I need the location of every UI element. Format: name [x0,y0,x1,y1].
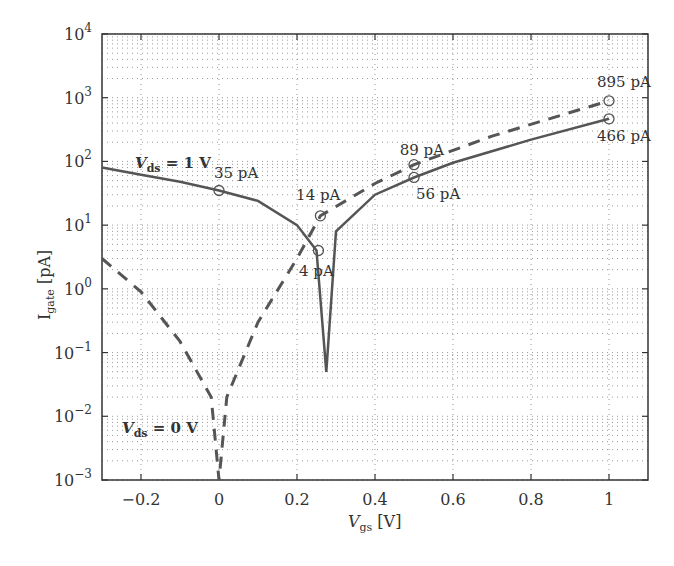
annotation-label: 4 pA [299,262,334,280]
y-tick-label: 10−2 [54,403,92,426]
y-tick-label: 103 [64,85,92,108]
y-tick-label: 101 [64,212,92,235]
y-tick-label: 102 [64,148,92,171]
annotation-label: 14 pA [296,186,340,204]
series-label-vds-1v: Vds = 1 V [135,154,211,175]
y-axis-label: Igate [pA] [35,250,57,320]
y-tick-label: 10−1 [54,340,92,363]
annotation-label: 895 pA [597,73,651,91]
series-label-vds-0v: Vds = 0 V [122,419,198,440]
chart: −0.200.20.40.60.81 10−310−210−1100101102… [0,0,674,566]
annotation-label: 89 pA [400,141,444,159]
x-tick-label: 0.8 [518,490,543,509]
y-tick-label: 10−3 [54,467,92,490]
x-tick-label: 0.2 [284,490,309,509]
y-tick-label: 104 [64,21,92,44]
x-axis-label: Vgs [V] [348,512,401,534]
axis-ticks [102,34,648,480]
y-tick-label: 100 [64,276,92,299]
grid [102,34,648,480]
annotation-label: 56 pA [416,185,460,203]
y-tick-labels: 10−310−210−1100101102103104 [54,21,92,490]
x-tick-labels: −0.200.20.40.60.81 [122,490,615,509]
data-markers [214,96,614,256]
x-tick-label: 0 [214,490,224,509]
x-tick-label: 1 [604,490,614,509]
x-tick-label: 0.6 [440,490,465,509]
plot-frame [102,34,648,480]
x-tick-label: −0.2 [122,490,161,509]
annotation-label: 35 pA [214,164,258,182]
annotation-label: 466 pA [597,127,651,145]
x-tick-label: 0.4 [362,490,387,509]
